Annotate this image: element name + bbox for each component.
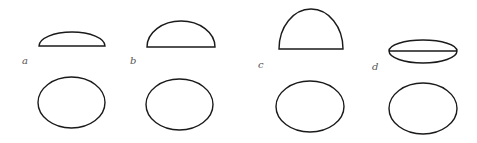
panel-b: b <box>130 21 215 130</box>
bottom-ellipse-b <box>146 79 213 130</box>
diagram-canvas: a b c d <box>0 0 477 143</box>
panel-d: d <box>372 40 457 134</box>
top-shape-d <box>389 40 457 63</box>
bottom-ellipse-c <box>276 81 344 132</box>
label-d: d <box>372 61 378 72</box>
label-c: c <box>258 59 264 70</box>
bottom-ellipse-d <box>389 83 457 134</box>
panel-c: c <box>258 9 344 132</box>
panel-a: a <box>22 32 105 128</box>
bottom-ellipse-a <box>38 77 105 128</box>
label-b: b <box>130 55 136 66</box>
top-shape-a <box>39 32 105 46</box>
top-shape-b <box>147 21 215 47</box>
top-shape-c <box>279 9 343 49</box>
label-a: a <box>22 55 28 66</box>
